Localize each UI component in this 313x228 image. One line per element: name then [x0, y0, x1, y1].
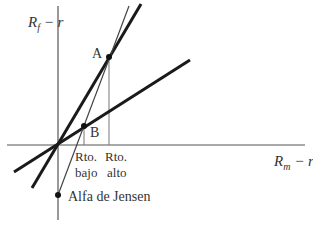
tick-low-line1: Rto. [75, 149, 97, 164]
jensen-alpha-diagram: Rf − r Rm − r A B Rto. bajo Rto. alto Al… [0, 0, 313, 228]
point-alfa [55, 192, 61, 198]
tick-high-line1: Rto. [105, 149, 127, 164]
point-A [106, 54, 112, 60]
point-B [81, 123, 87, 129]
tick-low-line2: bajo [75, 165, 97, 180]
tick-high-line2: alto [107, 165, 127, 180]
jensen-alpha-label: Alfa de Jensen [68, 189, 150, 204]
x-axis-label: Rm − r [273, 153, 313, 172]
label-A: A [92, 46, 103, 61]
label-B: B [90, 125, 99, 140]
